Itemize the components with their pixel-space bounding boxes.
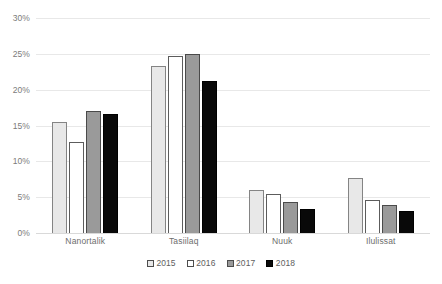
gridline (36, 233, 430, 234)
legend-label-2015: 2015 (156, 258, 175, 268)
bar-nuuk-2016[interactable] (266, 194, 281, 233)
bar-tasiilaq-2018[interactable] (202, 81, 217, 233)
bar-groups (36, 18, 430, 233)
y-axis-tick-label: 20% (0, 85, 30, 95)
bar-chart: 0%5%10%15%20%25%30% NanortalikTasiilaqNu… (0, 0, 442, 284)
bar-group (332, 18, 431, 233)
bar-group (233, 18, 332, 233)
x-axis-label-nanortalik: Nanortalik (36, 236, 135, 246)
legend-item-2015[interactable]: 2015 (147, 258, 176, 268)
bar-nuuk-2015[interactable] (249, 190, 264, 233)
bar-tasiilaq-2017[interactable] (185, 54, 200, 233)
legend-item-2016[interactable]: 2016 (187, 258, 216, 268)
bar-tasiilaq-2015[interactable] (151, 66, 166, 233)
y-axis-tick-label: 30% (0, 13, 30, 23)
bar-nanortalik-2015[interactable] (52, 122, 67, 233)
legend-swatch-icon-2016 (187, 260, 194, 267)
y-axis-tick-label: 25% (0, 49, 30, 59)
y-axis-tick-label: 5% (0, 192, 30, 202)
x-axis-label-ilulissat: Ilulissat (332, 236, 431, 246)
legend-swatch-icon-2015 (147, 260, 154, 267)
bar-nuuk-2018[interactable] (300, 209, 315, 233)
y-axis-tick-label: 10% (0, 156, 30, 166)
legend-label-2016: 2016 (196, 258, 215, 268)
bar-ilulissat-2016[interactable] (365, 200, 380, 233)
chart-legend: 2015201620172018 (0, 258, 442, 268)
legend-label-2017: 2017 (236, 258, 255, 268)
y-axis-tick-label: 15% (0, 121, 30, 131)
x-axis-labels: NanortalikTasiilaqNuukIlulissat (36, 236, 430, 246)
legend-label-2018: 2018 (276, 258, 295, 268)
bar-group (36, 18, 135, 233)
bar-nanortalik-2017[interactable] (86, 111, 101, 233)
legend-item-2017[interactable]: 2017 (227, 258, 256, 268)
bar-ilulissat-2015[interactable] (348, 178, 363, 233)
x-axis-label-tasiilaq: Tasiilaq (135, 236, 234, 246)
y-axis-tick-label: 0% (0, 228, 30, 238)
bar-ilulissat-2018[interactable] (399, 211, 414, 233)
legend-swatch-icon-2017 (227, 260, 234, 267)
bar-nanortalik-2018[interactable] (103, 114, 118, 233)
legend-item-2018[interactable]: 2018 (266, 258, 295, 268)
bar-tasiilaq-2016[interactable] (168, 56, 183, 233)
bar-ilulissat-2017[interactable] (382, 205, 397, 233)
legend-swatch-icon-2018 (266, 260, 273, 267)
bar-nuuk-2017[interactable] (283, 202, 298, 233)
bar-nanortalik-2016[interactable] (69, 142, 84, 233)
bar-group (135, 18, 234, 233)
x-axis-label-nuuk: Nuuk (233, 236, 332, 246)
